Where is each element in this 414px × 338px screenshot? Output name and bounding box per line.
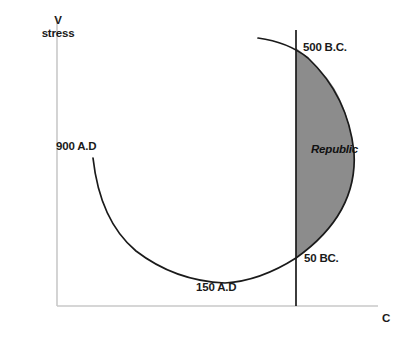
annotation-500-bc: 500 B.C. (303, 41, 347, 54)
annotation-150-ad: 150 A.D (196, 281, 236, 294)
x-axis-label: C (382, 312, 390, 325)
republic-region-label: Republic (311, 143, 358, 156)
y-axis-label: V stress (34, 14, 82, 40)
annotation-50-bc: 50 BC. (304, 252, 339, 265)
y-axis-label-line2: stress (34, 27, 82, 40)
y-axis-label-line1: V (34, 14, 82, 27)
stress-trajectory-figure: V stress C 500 B.C. 900 A.D 50 BC. 150 A… (0, 0, 414, 338)
annotation-900-ad: 900 A.D (56, 140, 96, 153)
